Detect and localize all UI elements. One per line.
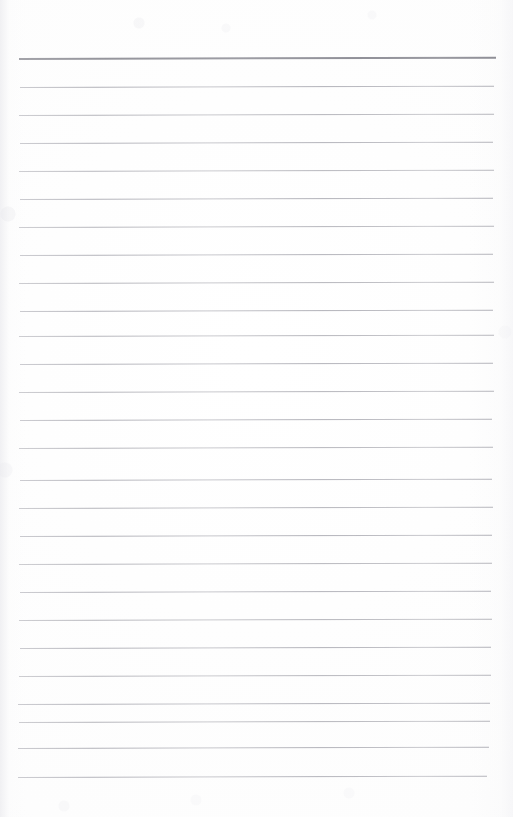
ruled-line bbox=[18, 747, 489, 749]
ruled-line bbox=[19, 226, 494, 228]
ruled-line bbox=[20, 142, 493, 144]
scanned-page bbox=[0, 0, 513, 817]
ruled-line bbox=[20, 363, 493, 365]
ruled-line bbox=[20, 86, 494, 88]
ruled-line bbox=[19, 619, 492, 621]
ruled-line bbox=[19, 170, 494, 172]
ruled-line bbox=[19, 335, 494, 337]
ruled-line bbox=[19, 57, 496, 60]
ruled-line bbox=[20, 591, 491, 593]
ruled-line bbox=[19, 114, 494, 116]
ruled-line bbox=[19, 447, 493, 449]
ruled-line bbox=[20, 479, 492, 481]
ruled-line bbox=[20, 254, 493, 256]
ruled-line bbox=[20, 310, 493, 312]
ruled-line bbox=[19, 675, 491, 677]
ruled-line-stack bbox=[0, 0, 513, 817]
ruled-line bbox=[19, 721, 490, 723]
ruled-line bbox=[19, 282, 494, 284]
ruled-line bbox=[19, 391, 494, 393]
ruled-line bbox=[19, 563, 492, 565]
ruled-line bbox=[20, 647, 491, 649]
ruled-line bbox=[18, 703, 490, 705]
ruled-line bbox=[19, 507, 493, 509]
ruled-line bbox=[20, 535, 492, 537]
ruled-line bbox=[20, 198, 493, 200]
ruled-line bbox=[20, 419, 492, 421]
ruled-line bbox=[18, 776, 487, 778]
